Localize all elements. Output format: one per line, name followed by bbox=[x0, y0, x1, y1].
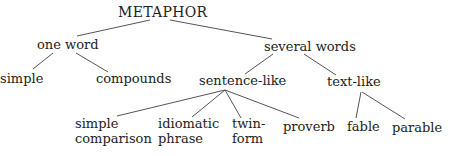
node-metaphor: METAPHOR bbox=[118, 5, 207, 20]
node-twin-form: twin- form bbox=[232, 116, 265, 146]
node-simple-comparison: simple comparison bbox=[75, 116, 152, 146]
node-several-words: several words bbox=[264, 39, 356, 54]
edge-root-severalwords bbox=[170, 20, 272, 39]
node-twin-form-line1: twin- bbox=[232, 116, 265, 131]
node-simple-comparison-line1: simple bbox=[75, 116, 152, 131]
node-simple: simple bbox=[0, 71, 43, 86]
edge-oneword-simple bbox=[33, 53, 53, 69]
node-idiomatic-phrase-line1: idiomatic bbox=[158, 116, 219, 131]
node-simple-comparison-line2: comparison bbox=[75, 131, 152, 146]
node-proverb: proverb bbox=[283, 119, 335, 134]
edge-root-oneword bbox=[77, 20, 150, 36]
node-idiomatic-phrase: idiomatic phrase bbox=[158, 116, 219, 146]
node-parable: parable bbox=[392, 120, 442, 135]
node-sentence-like: sentence-like bbox=[199, 73, 286, 88]
node-fable: fable bbox=[347, 119, 380, 134]
node-text-like: text-like bbox=[327, 74, 381, 89]
edge-oneword-compounds bbox=[76, 53, 108, 72]
edge-sentencelike-twinform bbox=[225, 90, 241, 118]
node-idiomatic-phrase-line2: phrase bbox=[158, 131, 219, 146]
edge-sentencelike-proverb bbox=[225, 90, 299, 118]
edge-severalwords-textlike bbox=[304, 54, 336, 75]
node-compounds: compounds bbox=[96, 71, 171, 86]
node-twin-form-line2: form bbox=[232, 131, 265, 146]
node-one-word: one word bbox=[37, 37, 99, 52]
edge-textlike-fable bbox=[356, 92, 361, 118]
edge-textlike-parable bbox=[362, 92, 405, 119]
edge-severalwords-sentencelike bbox=[245, 54, 273, 74]
